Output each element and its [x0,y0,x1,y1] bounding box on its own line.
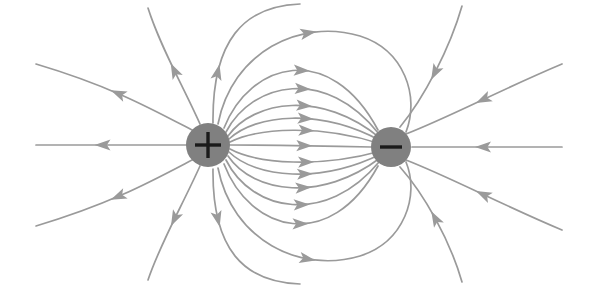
field-line-canvas: +− [0,0,597,285]
negative-charge: − [371,127,411,167]
positive-charge: + [186,123,230,167]
electric-dipole-figure: +− [0,0,597,285]
